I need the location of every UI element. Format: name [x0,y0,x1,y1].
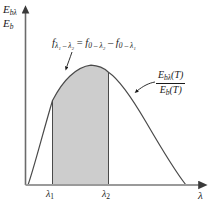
x-axis-label: λ [198,190,203,201]
curve-ratio-numerator: Ebλ(T) [156,70,185,84]
curve-ratio-label: Ebλ(T) Eb(T) [156,70,185,96]
x-tick-lambda1: λ1 [46,188,54,201]
y-axis-label: Ebλ Eb [3,3,17,32]
y-axis-label-denominator: Eb [3,17,17,31]
shaded-band [53,65,109,185]
plot-canvas [0,0,212,210]
fraction-formula-annotation: fλ₁ – λ₂ = f0 – λ₂ – f0 – λ₁ [52,38,136,50]
formula-leader-line [67,52,73,68]
y-axis-label-numerator: Ebλ [3,3,17,17]
x-tick-lambda2: λ2 [102,188,110,201]
curve-label-leader-line [137,82,155,91]
blackbody-fraction-figure: Ebλ Eb λ λ1 λ2 fλ₁ – λ₂ = f0 – λ₂ – f0 –… [0,0,212,210]
curve-ratio-denominator: Eb(T) [156,84,185,97]
